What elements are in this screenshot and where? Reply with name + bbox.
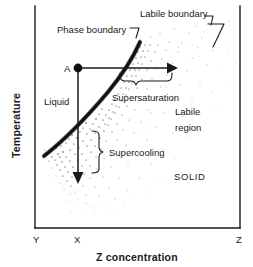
phase-boundary-label: Phase boundary <box>57 24 126 35</box>
solid-label: SOLID <box>174 171 206 182</box>
point-a-marker <box>74 64 83 73</box>
labile-region-label-line2: region <box>175 122 201 133</box>
supersaturation-label: Supersaturation <box>112 92 179 103</box>
x-tick-label-x: X <box>74 234 81 245</box>
figure-background <box>0 0 253 267</box>
labile-boundary-label: Labile boundary <box>140 8 208 19</box>
labile-region-label-line1: Labile <box>175 106 200 117</box>
supercooling-label: Supercooling <box>109 147 164 158</box>
phase-diagram-figure: Phase boundary Labile boundary A Liquid … <box>0 0 253 267</box>
point-a-label: A <box>64 63 71 74</box>
x-tick-label-y: Y <box>33 234 40 245</box>
y-axis-title: Temperature <box>10 93 22 158</box>
x-tick-label-z: Z <box>236 234 242 245</box>
x-axis-title: Z concentration <box>96 251 178 263</box>
liquid-label: Liquid <box>44 96 69 107</box>
